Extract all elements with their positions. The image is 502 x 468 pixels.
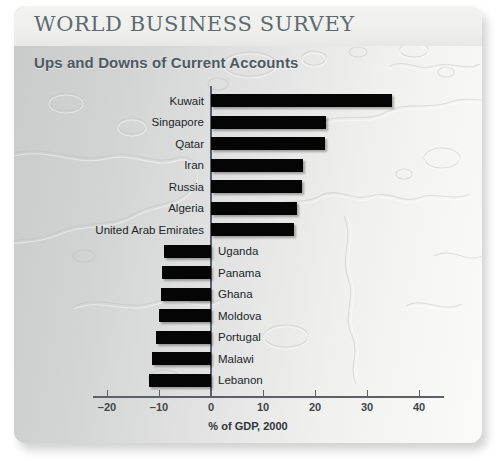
chart-bar — [211, 223, 294, 236]
bar-category-label: United Arab Emirates — [95, 224, 204, 237]
bar-category-label: Portugal — [218, 331, 261, 344]
x-axis-tick-label: 30 — [347, 401, 387, 413]
bar-category-label: Kuwait — [169, 95, 204, 108]
bar-category-label: Singapore — [152, 116, 204, 129]
x-axis-line — [93, 396, 444, 398]
x-axis-tick — [211, 390, 212, 396]
x-axis-tick — [107, 390, 108, 396]
bar-category-label: Lebanon — [218, 374, 263, 387]
chart-bar — [211, 159, 303, 172]
x-axis-tick — [367, 390, 368, 396]
chart-bar — [211, 202, 297, 215]
bar-category-label: Qatar — [175, 138, 204, 151]
bar-category-label: Uganda — [218, 245, 258, 258]
bar-category-label: Russia — [169, 181, 204, 194]
chart-bar — [161, 288, 211, 301]
x-axis-tick — [263, 390, 264, 396]
x-axis-tick-label: 0 — [191, 401, 231, 413]
bar-category-label: Moldova — [218, 310, 261, 323]
x-axis-title: % of GDP, 2000 — [14, 420, 482, 432]
x-axis-tick — [159, 390, 160, 396]
bar-category-label: Ghana — [218, 288, 253, 301]
screenshot-root: WORLD BUSINESS SURVEY Ups and Downs of C… — [0, 0, 502, 468]
chart-bar — [164, 245, 211, 258]
x-axis-tick-label: –20 — [87, 401, 127, 413]
chart-panel: WORLD BUSINESS SURVEY Ups and Downs of C… — [14, 6, 482, 443]
x-axis-tick-label: 40 — [399, 401, 439, 413]
bar-category-label: Panama — [218, 267, 261, 280]
chart-bar — [156, 331, 211, 344]
bar-category-label: Malawi — [218, 353, 254, 366]
x-axis-tick-label: 20 — [295, 401, 335, 413]
chart-plot-area: –20–10010203040% of GDP, 2000KuwaitSinga… — [14, 6, 482, 443]
chart-bar — [162, 266, 211, 279]
x-axis-tick — [419, 390, 420, 396]
bar-category-label: Algeria — [168, 202, 204, 215]
chart-bar — [211, 180, 302, 193]
chart-bar — [211, 116, 326, 129]
zero-axis-line — [210, 86, 212, 396]
x-axis-tick-label: 10 — [243, 401, 283, 413]
x-axis-tick-label: –10 — [139, 401, 179, 413]
chart-bar — [159, 309, 211, 322]
chart-bar — [149, 374, 211, 387]
x-axis-tick — [315, 390, 316, 396]
chart-bar — [152, 352, 211, 365]
chart-bar — [211, 94, 392, 107]
chart-bar — [211, 137, 325, 150]
bar-category-label: Iran — [184, 159, 204, 172]
